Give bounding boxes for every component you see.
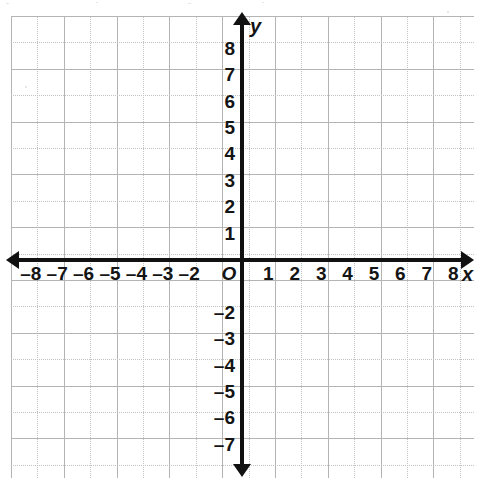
y-tick-label: 1 xyxy=(201,224,235,243)
scan-artifact xyxy=(447,11,449,13)
y-tick-label: 6 xyxy=(201,92,235,111)
scan-artifact xyxy=(6,3,9,4)
y-tick-label: 2 xyxy=(201,197,235,216)
y-tick-label: –4 xyxy=(201,356,235,375)
y-tick-label: 5 xyxy=(201,118,235,137)
grid-line-vertical xyxy=(196,16,198,478)
y-tick-label: 7 xyxy=(201,65,235,84)
y-axis-up-arrow-icon xyxy=(233,12,251,25)
y-tick-label: –6 xyxy=(201,408,235,427)
grid-line-vertical xyxy=(328,16,330,478)
y-tick-label: –2 xyxy=(201,303,235,322)
coordinate-plane: O x y –8–7–6–5–4–3–21234567887654321–2–3… xyxy=(0,0,482,485)
grid-line-vertical xyxy=(275,16,277,478)
grid-line-vertical xyxy=(90,16,92,478)
grid-line-vertical xyxy=(143,16,145,478)
y-axis-line xyxy=(240,22,244,470)
grid-line-vertical xyxy=(381,16,383,478)
y-tick-label: –3 xyxy=(201,329,235,348)
y-tick-label: 3 xyxy=(201,171,235,190)
x-tick-label: –2 xyxy=(172,264,206,283)
y-tick-label: –5 xyxy=(201,382,235,401)
y-axis-label: y xyxy=(250,16,261,36)
y-axis-down-arrow-icon xyxy=(233,464,251,477)
grid-line-vertical xyxy=(433,16,435,478)
grid-line-vertical xyxy=(354,16,356,478)
scan-artifact xyxy=(262,2,264,3)
grid-line-vertical xyxy=(11,16,13,478)
grid-line-vertical xyxy=(249,16,251,478)
y-tick-label: –7 xyxy=(201,435,235,454)
grid-line-vertical xyxy=(407,16,409,478)
grid-line-vertical xyxy=(37,16,39,478)
scan-artifact xyxy=(96,2,98,3)
y-tick-label: 4 xyxy=(201,144,235,163)
origin-label: O xyxy=(218,264,240,283)
grid-line-vertical xyxy=(301,16,303,478)
grid-line-vertical xyxy=(117,16,119,478)
x-tick-label: 8 xyxy=(436,264,470,283)
y-tick-label: 8 xyxy=(201,39,235,58)
grid-line-vertical xyxy=(460,16,462,478)
scan-artifact xyxy=(188,3,191,4)
grid-line-vertical xyxy=(64,16,66,478)
grid-line-vertical xyxy=(169,16,171,478)
